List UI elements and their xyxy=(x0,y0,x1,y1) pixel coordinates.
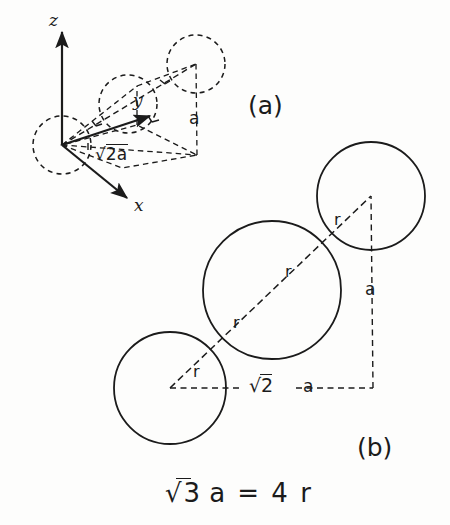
face-diagonal-label-b: √2 xyxy=(249,376,273,395)
panel-b-label: (b) xyxy=(357,435,392,460)
face-diagonal-radicand-a: 2a xyxy=(106,144,127,164)
face-diagonal-base xyxy=(62,145,197,155)
sphere-middle xyxy=(203,221,341,359)
z-axis-label: z xyxy=(49,12,58,29)
equation-radicand: 3 xyxy=(184,478,203,508)
cell-edge-label-a: a xyxy=(189,110,199,127)
y-axis-label: y xyxy=(133,92,143,109)
vertical-edge-label-b: a xyxy=(365,281,375,298)
cell-face-diagonal-upper xyxy=(62,86,137,145)
r-label-4: r xyxy=(334,212,341,228)
face-diagonal-radicand-b: 2 xyxy=(261,374,273,396)
body-diagonal-a xyxy=(62,64,196,145)
r-label-2: r xyxy=(233,315,240,331)
y-axis-arrow xyxy=(62,116,150,145)
face-diagonal-label-a: √2a xyxy=(95,146,127,163)
r-label-3: r xyxy=(285,264,292,280)
x-axis-label: x xyxy=(134,197,144,214)
panel-a-label: (a) xyxy=(248,93,283,118)
packing-relation-equation: √3a = 4 r xyxy=(165,480,313,506)
equation-body: a = 4 r xyxy=(209,478,313,508)
horizontal-edge-label-b: a xyxy=(303,378,313,395)
panel-b-group xyxy=(114,142,425,444)
r-label-1: r xyxy=(193,364,200,380)
